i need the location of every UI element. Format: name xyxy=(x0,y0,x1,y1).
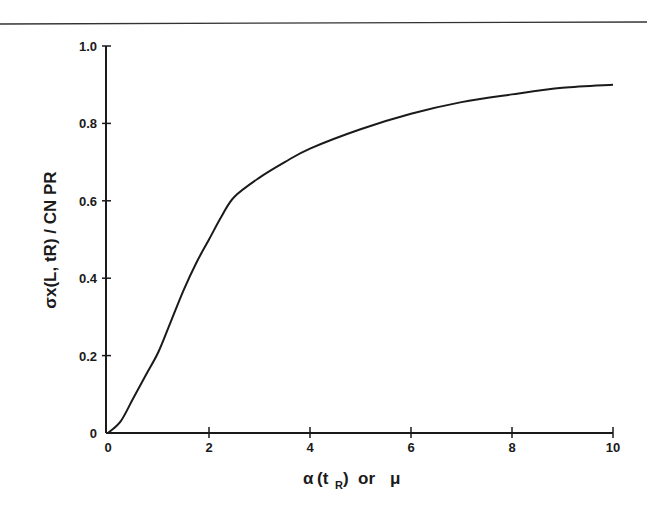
y-tick-label: 0.4 xyxy=(79,271,98,286)
x-label-mu: μ xyxy=(390,469,400,488)
axes xyxy=(106,46,613,433)
x-label-or: or xyxy=(358,469,375,488)
x-label-paren: (t xyxy=(317,469,329,488)
x-tick-label: 2 xyxy=(205,440,212,455)
chart: 0246810 00.20.40.60.81.0 α (t R ) or μ σ… xyxy=(0,0,647,509)
x-tick-label: 8 xyxy=(508,440,515,455)
y-tick-label: 0.8 xyxy=(79,116,97,131)
x-tick-label: 6 xyxy=(407,440,414,455)
y-axis-label: σx(L, tR) / CN PR xyxy=(41,171,60,308)
x-tick-label: 4 xyxy=(306,440,314,455)
x-tick-label: 0 xyxy=(104,440,111,455)
y-tick-label: 1.0 xyxy=(79,39,97,54)
x-label-paren-close: ) xyxy=(343,469,349,488)
x-label-sub: R xyxy=(335,479,343,491)
y-tick-label: 0.2 xyxy=(79,349,97,364)
x-label-alpha: α xyxy=(303,469,314,488)
y-tick-label: 0 xyxy=(90,426,97,441)
x-tick-label: 10 xyxy=(606,440,620,455)
x-axis-label: α (t R ) or μ xyxy=(303,469,400,491)
x-axis-ticks: 0246810 xyxy=(104,427,620,455)
y-tick-label: 0.6 xyxy=(79,194,97,209)
top-rule xyxy=(0,22,647,24)
data-curve xyxy=(108,85,613,433)
